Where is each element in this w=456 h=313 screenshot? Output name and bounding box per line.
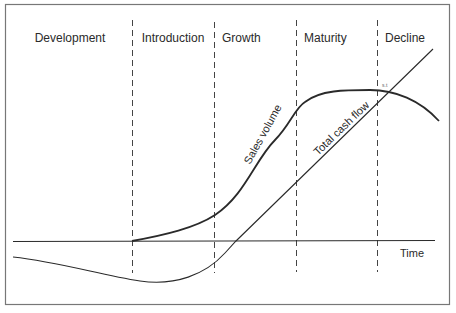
- intersection-annotation: s.t: [382, 82, 388, 88]
- product-life-cycle-diagram: Development Introduction Growth Maturity…: [0, 0, 456, 313]
- phase-label-maturity: Maturity: [304, 31, 347, 45]
- time-axis-label: Time: [400, 247, 424, 259]
- phase-label-growth: Growth: [222, 31, 261, 45]
- phase-label-development: Development: [35, 31, 106, 45]
- phase-label-introduction: Introduction: [142, 31, 205, 45]
- diagram-frame: [6, 5, 450, 305]
- phase-label-decline: Decline: [385, 31, 425, 45]
